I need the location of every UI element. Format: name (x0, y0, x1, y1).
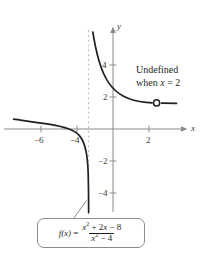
den-tail: − 4 (98, 233, 112, 243)
formula-callout-box: f(x) = x2 + 2x − 8 x2 − 4 (37, 218, 145, 248)
figure-canvas: y x −6 −4 2 4 2 −2 −4 Undefined when x =… (0, 0, 204, 257)
formula-denominator: x2 − 4 (89, 233, 114, 243)
num-tail: − 8 (107, 222, 121, 232)
undefined-annotation-when: when (136, 77, 160, 88)
formula-lhs: f(x) (59, 228, 72, 238)
curve-left-branch (14, 119, 89, 212)
y-tick-label-4: 4 (102, 61, 107, 70)
formula-numerator: x2 + 2x − 8 (80, 223, 123, 232)
formula-equals: = (73, 228, 78, 238)
x-tick-label-2: 2 (146, 136, 151, 145)
y-tick-label-neg4: −4 (98, 189, 108, 198)
y-tick-label-2: 2 (103, 93, 108, 102)
undefined-annotation-value: = 2 (165, 77, 181, 88)
x-axis-label: x (191, 124, 195, 133)
removable-discontinuity-hole (154, 100, 160, 106)
callout-leader-line (74, 201, 87, 219)
x-tick-label-neg4: −4 (70, 136, 80, 145)
formula-fraction: x2 + 2x − 8 x2 − 4 (80, 223, 123, 243)
y-tick-label-neg2: −2 (98, 157, 108, 166)
formula-expression: f(x) = x2 + 2x − 8 x2 − 4 (59, 223, 124, 243)
x-axis (4, 126, 188, 132)
y-axis-label: y (117, 22, 121, 31)
y-axis (110, 27, 116, 213)
x-tick-label-neg6: −6 (34, 136, 44, 145)
undefined-annotation: Undefined when x = 2 (136, 64, 180, 89)
undefined-annotation-line1: Undefined (136, 64, 178, 75)
